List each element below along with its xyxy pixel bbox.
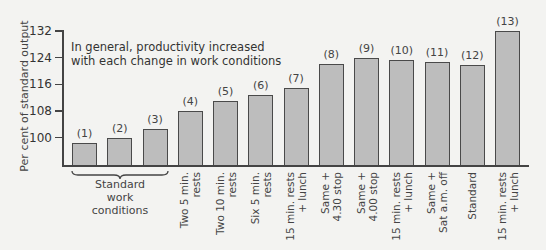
- bar-label-1: (1): [65, 127, 105, 140]
- bar-10: [389, 60, 414, 165]
- y-tick-label: 108: [20, 104, 52, 118]
- y-axis-label: Per cent of standard output: [18, 20, 31, 171]
- bar-label-4: (4): [170, 95, 210, 108]
- bar-7: [284, 88, 309, 165]
- bar-3: [143, 129, 168, 165]
- bar-9: [354, 58, 379, 165]
- x-tick-label-5: Two 10 min. rests: [214, 172, 238, 235]
- group-label-standard-work-conditions: Standardworkconditions: [70, 178, 170, 217]
- x-tick-label-11: Same + Sat a.m. off: [425, 172, 449, 233]
- bar-label-10: (10): [382, 44, 422, 57]
- bar-label-3: (3): [135, 113, 175, 126]
- x-tick-label-4: Two 5 min. rests: [178, 172, 202, 228]
- bar-4: [178, 111, 203, 165]
- bar-label-7: (7): [276, 72, 316, 85]
- y-axis-line: [62, 30, 64, 166]
- bar-1: [72, 143, 97, 165]
- bar-label-9: (9): [347, 42, 387, 55]
- x-tick-label-6: Six 5 min. rests: [249, 172, 273, 224]
- x-tick-label-7: 15 min. rests + lunch: [284, 172, 308, 241]
- y-tick-label: 124: [20, 51, 52, 65]
- bar-label-13: (13): [488, 15, 528, 28]
- bar-label-6: (6): [241, 79, 281, 92]
- x-tick-label-9: Same + 4.00 stop: [355, 172, 379, 221]
- bar-label-8: (8): [311, 48, 351, 61]
- x-tick-label-8: Same + 4.30 stop: [319, 172, 343, 221]
- bar-label-12: (12): [452, 49, 492, 62]
- productivity-bar-chart: Per cent of standard output 100108116124…: [0, 0, 546, 250]
- bar-2: [107, 138, 132, 166]
- bar-label-2: (2): [100, 122, 140, 135]
- y-tick-label: 132: [20, 24, 52, 38]
- x-tick-label-10: 15 min. rests + lunch: [390, 172, 414, 241]
- bar-label-11: (11): [417, 46, 457, 59]
- x-tick-label-12: Standard: [466, 172, 478, 220]
- x-tick-label-13: 15 min. rests + lunch: [496, 172, 520, 241]
- x-axis-line: [62, 165, 529, 167]
- bar-6: [248, 95, 273, 165]
- y-tick-label: 116: [20, 77, 52, 91]
- bar-12: [460, 65, 485, 165]
- bar-13: [495, 31, 520, 165]
- chart-annotation: In general, productivity increased with …: [71, 40, 281, 68]
- bar-11: [425, 62, 450, 165]
- bar-8: [319, 64, 344, 165]
- y-tick-label: 100: [20, 131, 52, 145]
- bar-5: [213, 101, 238, 165]
- bar-label-5: (5): [206, 85, 246, 98]
